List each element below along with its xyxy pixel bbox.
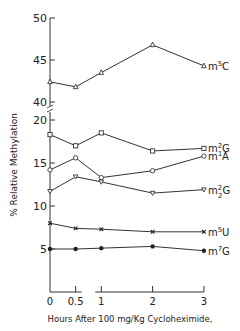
data-point [99, 70, 104, 75]
series-line [50, 246, 204, 250]
data-point [48, 133, 52, 137]
data-point [48, 168, 52, 172]
x-tick-label: 1 [98, 296, 104, 307]
series-m5U: m5U [48, 221, 229, 237]
y-tick-label: 20 [33, 114, 47, 127]
y-tick-label: 10 [33, 200, 47, 213]
data-point [99, 131, 103, 135]
data-point [73, 175, 78, 179]
y-axis-label: % Relative Methylation [9, 113, 19, 217]
x-tick-label: 0.5 [68, 296, 84, 307]
data-point [48, 247, 52, 251]
data-point [202, 249, 206, 253]
series-line [50, 45, 204, 87]
y-axis-break-mark [47, 109, 53, 112]
y-tick-label: 40 [33, 96, 47, 109]
series-line [50, 177, 204, 193]
series-label: m5U [208, 226, 230, 238]
data-point [202, 146, 206, 150]
data-point [150, 42, 155, 47]
methylation-chart: 404550510152000.5123 m5Cm2Gm1Am22Gm5Um7G… [0, 0, 240, 331]
series-m2G: m2G [48, 131, 230, 155]
series-group: m5Cm2Gm1Am22Gm5Um7G [48, 42, 231, 257]
data-point [73, 247, 77, 251]
data-point [150, 244, 154, 248]
data-point [150, 191, 155, 195]
data-point [202, 154, 206, 158]
y-tick-label: 5 [40, 243, 47, 256]
data-point [99, 180, 104, 184]
series-label: m7G [208, 245, 230, 257]
series-label: m5C [208, 60, 229, 72]
series-label: m1A [208, 150, 229, 162]
data-point [73, 84, 78, 89]
series-line [50, 223, 204, 232]
x-tick-label: 3 [201, 296, 207, 307]
x-axis-label: Hours After 100 mg/Kg Cycloheximide, [48, 314, 213, 324]
y-tick-label: 45 [33, 54, 47, 67]
series-m7G: m7G [48, 244, 230, 257]
data-point [73, 156, 77, 160]
x-tick-label: 2 [149, 296, 155, 307]
data-point [48, 190, 53, 194]
series-line [50, 133, 204, 151]
data-point [202, 63, 207, 68]
data-point [99, 246, 103, 250]
data-point [74, 144, 78, 148]
data-point [150, 169, 154, 173]
x-tick-label: 0 [47, 296, 53, 307]
series-m2_2G: m22G [48, 175, 231, 200]
y-tick-label: 15 [33, 157, 47, 170]
series-m5C: m5C [48, 42, 229, 89]
series-line [50, 156, 204, 178]
data-point [202, 188, 207, 192]
series-label: m22G [208, 184, 230, 200]
data-point [151, 149, 155, 153]
data-point [48, 79, 53, 84]
data-point [99, 175, 103, 179]
y-tick-label: 50 [33, 12, 47, 25]
